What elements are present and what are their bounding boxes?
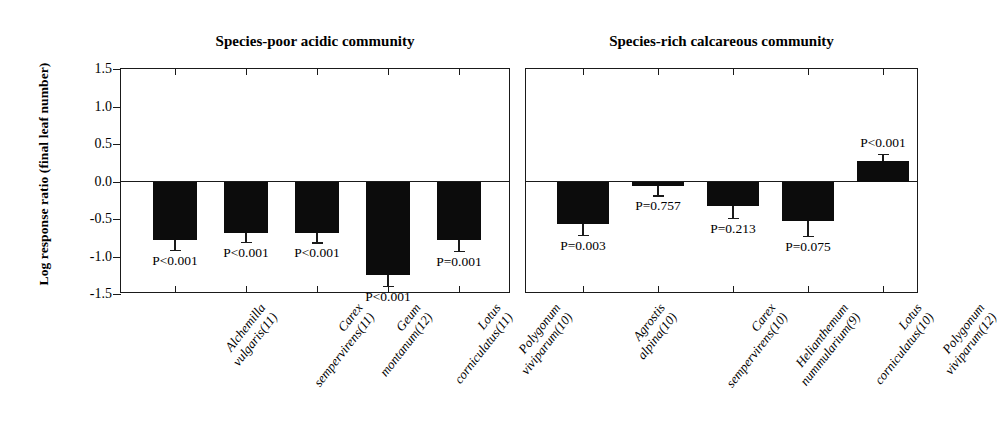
error-bar (807, 221, 809, 236)
y-axis-tick-label: 1.5 (95, 62, 113, 76)
x-axis-category-label: Alchemillavulgaris(11) (218, 301, 280, 369)
x-axis-category-label: Polygonumviviparum(10) (507, 301, 576, 378)
p-value-label: P<0.001 (365, 290, 411, 304)
panel-title-right: Species-rich calcareous community (526, 33, 917, 50)
y-axis-tick-label: 0.5 (95, 137, 113, 151)
p-value-label: P=0.075 (785, 240, 831, 254)
y-axis-tick-label: 1.0 (95, 100, 113, 114)
x-axis-tick-top (175, 69, 176, 75)
y-axis-tick (113, 69, 121, 70)
p-value-label: P<0.001 (294, 246, 340, 260)
error-bar (458, 240, 460, 251)
panel-species-poor-acidic: Species-poor acidic community 1.51.00.50… (120, 68, 510, 293)
bar (153, 182, 197, 241)
bar (857, 161, 909, 182)
x-axis-tick-top (583, 69, 584, 75)
x-axis-tick-bottom (883, 286, 884, 292)
x-axis-tick-top (808, 69, 809, 75)
x-axis-tick-bottom (246, 286, 247, 292)
error-bar-cap (454, 251, 465, 253)
error-bar-cap (878, 154, 889, 156)
x-axis-category-label: Lotuscorniculatus(11) (440, 301, 516, 386)
x-axis-tick-top (733, 69, 734, 75)
panel-species-rich-calcareous: Species-rich calcareous community P=0.00… (525, 68, 918, 293)
error-bar (582, 224, 584, 235)
error-bar-cap (653, 195, 664, 197)
x-axis-tick-bottom (808, 286, 809, 292)
y-axis-tick (113, 182, 121, 183)
x-axis-tick-top (317, 69, 318, 75)
bar (437, 182, 481, 241)
bar (366, 182, 410, 276)
x-axis-tick-bottom (317, 286, 318, 292)
y-axis-tick (113, 219, 121, 220)
panel-title-left: Species-poor acidic community (121, 33, 509, 50)
bar (224, 182, 268, 233)
error-bar (732, 206, 734, 217)
error-bar-cap (728, 218, 739, 220)
bar (295, 182, 339, 234)
bar (707, 182, 759, 207)
error-bar-cap (383, 286, 394, 288)
p-value-label: P=0.001 (436, 255, 482, 269)
x-axis-category-label: Lotuscorniculatus(10) (860, 301, 936, 387)
y-axis-title: Log response ratio (final leaf number) (36, 34, 52, 314)
x-axis-tick-top (883, 69, 884, 75)
y-axis-tick (113, 107, 121, 108)
p-value-label: P=0.757 (635, 199, 681, 213)
x-axis-tick-top (246, 69, 247, 75)
x-axis-tick-top (388, 69, 389, 75)
error-bar (174, 240, 176, 250)
p-value-label: P=0.213 (710, 222, 756, 236)
p-value-label: P<0.001 (152, 254, 198, 268)
x-axis-category-label: Carexsempervirens(10) (712, 301, 791, 390)
y-axis-tick-label: -0.5 (90, 212, 112, 226)
x-axis-tick-bottom (733, 286, 734, 292)
error-bar (316, 233, 318, 242)
y-axis-tick-label: -1.0 (90, 250, 112, 264)
x-axis-tick-top (658, 69, 659, 75)
y-axis-tick-label: -1.5 (90, 287, 112, 301)
y-axis-tick (113, 257, 121, 258)
x-axis-category-label: Helianthemumnummularium(9) (786, 301, 863, 388)
bar (557, 182, 609, 225)
error-bar-cap (578, 235, 589, 237)
error-bar-cap (241, 242, 252, 244)
error-bar-cap (803, 236, 814, 238)
y-axis-tick (113, 294, 121, 295)
p-value-label: P<0.001 (223, 246, 269, 260)
x-axis-category-label: Polygonumviviparum(12) (931, 301, 999, 378)
error-bar-cap (170, 250, 181, 252)
x-axis-tick-bottom (583, 286, 584, 292)
x-axis-tick-top (459, 69, 460, 75)
bar (782, 182, 834, 221)
x-axis-tick-bottom (459, 286, 460, 292)
x-axis-tick-bottom (658, 286, 659, 292)
error-bar (657, 186, 659, 195)
x-axis-category-label: Carexsempervirens(11) (299, 301, 377, 389)
x-axis-category-label: Geummontanum(12) (365, 301, 435, 379)
x-axis-category-label: Agrostisalpina(10) (623, 301, 680, 362)
y-axis-tick-label: 0.0 (95, 175, 113, 189)
y-axis-tick (113, 144, 121, 145)
error-bar-cap (312, 242, 323, 244)
error-bar (387, 275, 389, 286)
p-value-label: P<0.001 (860, 136, 906, 150)
x-axis-tick-bottom (175, 286, 176, 292)
error-bar (245, 233, 247, 242)
p-value-label: P=0.003 (560, 239, 606, 253)
